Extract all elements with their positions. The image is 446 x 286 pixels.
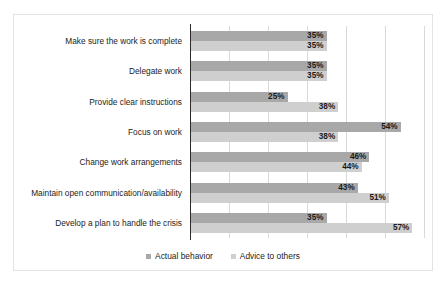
category-label: Delegate work: [129, 66, 182, 76]
bar-value-label: 35%: [190, 71, 324, 81]
bar-value-label: 38%: [190, 102, 335, 112]
bar-group: 46%44%: [190, 152, 424, 172]
category-label: Maintain open communication/availability: [31, 188, 182, 198]
bar-value-label: 54%: [190, 122, 398, 132]
legend-item-actual[interactable]: Actual behavior: [146, 251, 213, 261]
bar-value-label: 35%: [190, 41, 324, 51]
bar-group: 35%57%: [190, 213, 424, 233]
legend-label: Actual behavior: [155, 251, 213, 261]
bar-group: 43%51%: [190, 183, 424, 203]
bar-value-label: 43%: [190, 183, 355, 193]
legend-item-advice[interactable]: Advice to others: [231, 251, 300, 261]
bar-value-label: 35%: [190, 61, 324, 71]
bar-value-label: 38%: [190, 132, 335, 142]
bar-value-label: 51%: [190, 193, 386, 203]
legend-label: Advice to others: [240, 251, 300, 261]
legend-swatch-icon: [231, 254, 236, 259]
category-label: Change work arrangements: [80, 157, 182, 167]
bar-value-label: 25%: [190, 92, 285, 102]
category-axis-labels: Make sure the work is completeDelegate w…: [14, 26, 186, 238]
bar-value-label: 44%: [190, 162, 359, 172]
bar-group: 25%38%: [190, 92, 424, 112]
chart-container: Make sure the work is completeDelegate w…: [0, 0, 446, 286]
bar-group: 35%35%: [190, 61, 424, 81]
bar-group: 54%38%: [190, 122, 424, 142]
plot-area: 35%35%35%35%25%38%54%38%46%44%43%51%35%5…: [190, 26, 424, 238]
chart-legend: Actual behaviorAdvice to others: [0, 251, 446, 261]
gridline: [424, 26, 425, 238]
category-label: Focus on work: [128, 127, 182, 137]
bar-value-label: 35%: [190, 213, 324, 223]
bar-value-label: 46%: [190, 152, 366, 162]
bar-group: 35%35%: [190, 31, 424, 51]
bar-value-label: 35%: [190, 31, 324, 41]
value-axis-line: [190, 24, 191, 240]
category-label: Develop a plan to handle the crisis: [55, 218, 182, 228]
legend-swatch-icon: [146, 254, 151, 259]
bar-value-label: 57%: [190, 223, 409, 233]
category-label: Provide clear instructions: [89, 97, 182, 107]
category-label: Make sure the work is complete: [65, 36, 182, 46]
